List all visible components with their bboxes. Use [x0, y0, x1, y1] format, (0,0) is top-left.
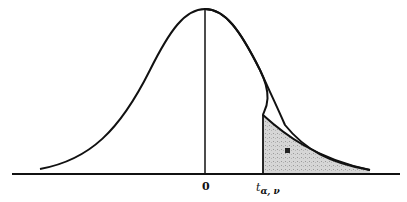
- tail-area-marker: [285, 148, 290, 153]
- t-distribution-diagram: [0, 0, 407, 202]
- center-label: 0: [202, 180, 210, 193]
- critical-value-subscript: α, ν: [260, 186, 279, 196]
- critical-value-label: tα, ν: [256, 181, 280, 196]
